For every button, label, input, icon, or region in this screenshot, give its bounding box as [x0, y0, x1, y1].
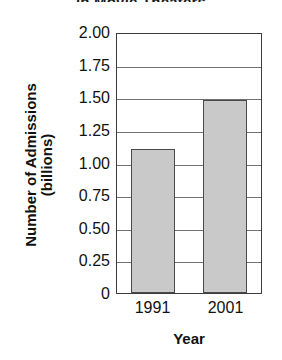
y-axis-title-line-1: Number of Admissions — [23, 83, 39, 247]
y-axis-tick-label: 0.50 — [48, 220, 110, 238]
x-axis-tick-labels: 19912001 — [116, 299, 262, 317]
bar — [131, 149, 175, 293]
y-axis-tick-label: 0 — [48, 285, 110, 303]
chart-title: in Movie Theaters — [0, 0, 282, 2]
y-axis-tick-label: 1.50 — [48, 89, 110, 107]
bar — [203, 100, 247, 293]
bar-chart-figure: in Movie Theaters Number of Admissions (… — [0, 0, 282, 360]
y-axis-tick-label: 1.25 — [48, 122, 110, 140]
y-axis-tick-label: 0.75 — [48, 187, 110, 205]
y-axis-tick-label: 1.75 — [48, 57, 110, 75]
y-axis-tick-label: 0.25 — [48, 252, 110, 270]
y-axis-tick-label: 1.00 — [48, 155, 110, 173]
y-axis-tick-label: 2.00 — [48, 24, 110, 42]
y-axis-tick-labels: 2.001.751.501.251.000.750.500.250 — [48, 25, 110, 301]
x-axis-tick-label: 2001 — [208, 299, 244, 317]
x-axis-tick-label: 1991 — [135, 299, 171, 317]
x-axis-title: Year — [116, 330, 262, 347]
plot-area — [116, 33, 262, 294]
bar-series — [117, 34, 261, 293]
